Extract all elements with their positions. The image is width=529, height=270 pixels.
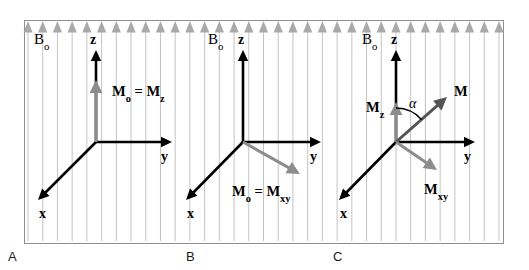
axis-z-a-label: z [90, 32, 96, 47]
alpha-label: α [409, 96, 417, 111]
axis-x-a-label: x [39, 206, 46, 221]
figure-canvas: BozyxMo = MzBozyxMo = MxyBozyxMzMMxyα A … [0, 0, 529, 270]
axis-y-a-label: y [161, 149, 168, 164]
panel-label-a: A [8, 250, 17, 263]
axis-z-c-label: z [391, 32, 397, 47]
magnetization-diagram: BozyxMo = MzBozyxMo = MxyBozyxMzMMxyα [0, 0, 529, 270]
axis-y-c-label: y [464, 149, 471, 164]
axis-y-b-label: y [310, 149, 317, 164]
vector-m-c-label: M [454, 83, 468, 99]
axis-x-b-label: x [187, 206, 194, 221]
panel-label-c: C [333, 250, 342, 263]
axis-z-b-label: z [238, 32, 244, 47]
panel-label-b: B [186, 250, 195, 263]
axis-x-c-label: x [340, 206, 347, 221]
